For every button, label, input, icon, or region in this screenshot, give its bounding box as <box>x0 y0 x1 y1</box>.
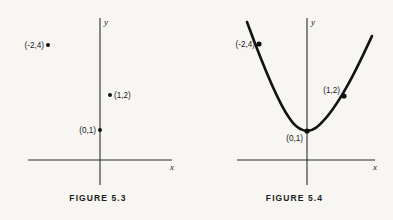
point-label-1-2: (1,2) <box>323 86 340 95</box>
figure-5-4: x y (-2,4) (1,2) (0,1) FIGURE 5.4 <box>196 0 393 220</box>
point-marker-1-2 <box>108 93 112 97</box>
y-axis-label: y <box>310 17 315 27</box>
point-marker-neg2-4 <box>256 41 261 46</box>
figure-5-3-caption: FIGURE 5.3 <box>0 193 196 203</box>
point-marker-neg2-4 <box>46 43 50 47</box>
point-label-0-1: (0,1) <box>79 126 96 135</box>
x-axis-label: x <box>372 162 377 172</box>
point-marker-1-2 <box>341 93 346 98</box>
figure-5-4-caption: FIGURE 5.4 <box>196 193 393 203</box>
x-axis-label: x <box>169 162 174 172</box>
point-marker-0-1 <box>304 128 309 133</box>
figure-5-3: x y (-2,4) (1,2) (0,1) FIGURE 5.3 <box>0 0 196 220</box>
point-label-0-1: (0,1) <box>286 134 303 143</box>
figure-5-3-plot: x y (-2,4) (1,2) (0,1) <box>0 0 196 192</box>
point-marker-0-1 <box>98 128 102 132</box>
figure-pair: x y (-2,4) (1,2) (0,1) FIGURE 5.3 x y (-… <box>0 0 393 220</box>
figure-5-4-plot: x y (-2,4) (1,2) (0,1) <box>196 0 393 192</box>
y-axis-label: y <box>103 17 108 27</box>
point-label-1-2: (1,2) <box>114 91 131 100</box>
point-label-neg2-4: (-2,4) <box>24 41 44 50</box>
point-label-neg2-4: (-2,4) <box>235 40 255 49</box>
parabola-curve <box>247 22 372 131</box>
